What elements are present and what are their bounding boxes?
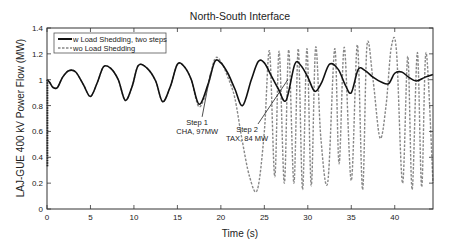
chart-container: North-South Interface 051015202530354000…	[0, 0, 452, 244]
x-axis-label: Time (s)	[222, 228, 258, 239]
step2-label: Step 2	[236, 125, 258, 134]
plot-lines	[47, 37, 433, 192]
y-tick-label: 0	[39, 205, 44, 214]
series-without-shedding	[47, 37, 433, 192]
x-tick-label: 20	[216, 213, 225, 222]
y-tick-label: 0.8	[32, 102, 44, 111]
line-chart: North-South Interface 051015202530354000…	[0, 0, 452, 244]
y-tick-label: 0.2	[32, 179, 44, 188]
x-tick-label: 25	[260, 213, 269, 222]
x-tick-label: 10	[129, 213, 138, 222]
x-tick-label: 5	[88, 213, 93, 222]
step1-arrow-line	[202, 73, 210, 117]
y-tick-label: 0.6	[32, 127, 44, 136]
y-tick-label: 1.2	[32, 50, 44, 59]
step1-detail: CHA, 97MW	[176, 127, 219, 136]
axis-ticks: 051015202530354000.20.40.60.811.21.4	[32, 24, 433, 222]
x-tick-label: 15	[173, 213, 182, 222]
chart-title: North-South Interface	[190, 10, 291, 22]
x-tick-label: 40	[390, 213, 399, 222]
plot-frame	[47, 28, 433, 209]
x-tick-label: 0	[45, 213, 50, 222]
x-tick-label: 35	[347, 213, 356, 222]
y-tick-label: 0.4	[32, 153, 44, 162]
y-axis-label: LAJ-GUE 400 kV Power Flow (MW)	[15, 39, 26, 197]
legend-label-without-shedding: wo Load Shedding	[72, 44, 135, 53]
step2-detail: TAX, 84 MW	[226, 134, 269, 143]
series-with-shedding	[47, 60, 433, 106]
y-tick-label: 1	[39, 76, 44, 85]
legend-label-with-shedding: w Load Shedding, two steps	[72, 35, 167, 44]
legend: w Load Shedding, two steps wo Load Shedd…	[54, 33, 167, 53]
step1-label: Step 1	[186, 118, 208, 127]
x-tick-label: 30	[303, 213, 312, 222]
y-tick-label: 1.4	[32, 24, 44, 33]
